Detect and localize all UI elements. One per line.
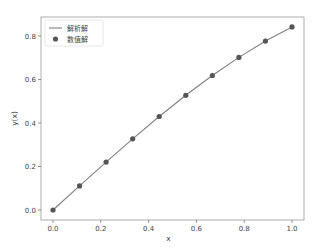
- chart: 0.00.20.40.60.81.00.00.20.40.60.8xy(x)解析…: [0, 0, 319, 251]
- y-axis-label: y(x): [10, 111, 19, 126]
- legend-label-numerical: 数值解: [67, 35, 88, 44]
- y-tick-label: 0.2: [25, 163, 36, 171]
- numerical-solution-point: [210, 73, 215, 78]
- analytic-solution-line: [53, 27, 292, 210]
- numerical-solution-point: [77, 183, 82, 188]
- plot-frame: [41, 17, 304, 220]
- plot-area: 0.00.20.40.60.81.00.00.20.40.60.8xy(x)解析…: [10, 17, 304, 243]
- numerical-solution-point: [236, 55, 241, 60]
- x-axis-label: x: [166, 234, 171, 243]
- numerical-solution-point: [130, 136, 135, 141]
- numerical-solution-point: [263, 38, 268, 43]
- y-tick-label: 0.6: [25, 76, 37, 84]
- y-tick-label: 0.0: [25, 207, 36, 215]
- x-tick-label: 0.8: [239, 225, 250, 233]
- x-tick-label: 1.0: [286, 225, 297, 233]
- x-tick-label: 0.0: [47, 225, 58, 233]
- y-tick-label: 0.4: [25, 120, 37, 128]
- numerical-solution-point: [289, 24, 294, 29]
- x-tick-label: 0.6: [191, 225, 203, 233]
- y-tick-label: 0.8: [25, 33, 36, 41]
- numerical-solution-point: [104, 159, 109, 164]
- numerical-solution-point: [157, 114, 162, 119]
- numerical-solution-point: [183, 93, 188, 98]
- x-tick-label: 0.4: [143, 225, 155, 233]
- legend-label-analytic: 解析解: [67, 24, 88, 33]
- legend-dot-icon: [53, 36, 58, 41]
- x-tick-label: 0.2: [95, 225, 106, 233]
- legend: 解析解数值解: [45, 20, 103, 46]
- numerical-solution-point: [50, 207, 55, 212]
